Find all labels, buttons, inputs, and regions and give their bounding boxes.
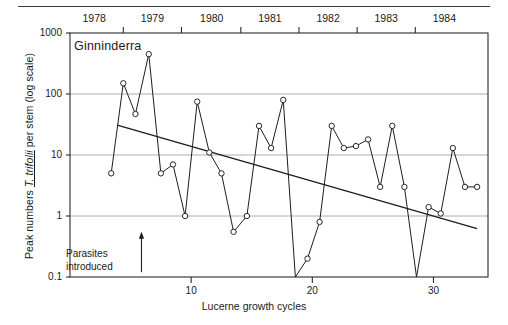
y-tick-label: 100 xyxy=(22,88,62,99)
parasites-arrow xyxy=(139,232,144,272)
top-rule xyxy=(18,6,490,7)
chart-figure: Peak numbers T. trifolii per stem (log s… xyxy=(0,0,508,325)
y-tick-label: 0.1 xyxy=(22,271,62,282)
year-tick-label: 1984 xyxy=(419,12,469,24)
y-axis-label-prefix: Peak numbers xyxy=(23,187,35,259)
year-tick-label: 1980 xyxy=(187,12,237,24)
trend-line xyxy=(117,125,477,229)
x-axis-label: Lucerne growth cycles xyxy=(0,300,508,312)
annotation-line-1: Parasites xyxy=(66,248,113,261)
year-tick-label: 1979 xyxy=(127,12,177,24)
y-axis-label-suffix: per stem (log scale) xyxy=(23,53,35,150)
year-tick-label: 1978 xyxy=(69,12,119,24)
annotation-line-2: introduced xyxy=(66,261,113,274)
gridlines xyxy=(70,94,488,216)
y-tick-label: 1 xyxy=(22,210,62,221)
data-line xyxy=(111,54,477,277)
year-tick-label: 1981 xyxy=(245,12,295,24)
year-tick-label: 1982 xyxy=(303,12,353,24)
x-tick-label: 30 xyxy=(413,285,453,296)
x-tick-label: 20 xyxy=(292,285,332,296)
series-label: Ginninderra xyxy=(74,39,142,53)
year-tick-marks xyxy=(123,27,415,33)
parasites-annotation: Parasites introduced xyxy=(66,248,113,273)
y-tick-marks xyxy=(66,33,70,277)
y-tick-label: 1000 xyxy=(22,27,62,38)
x-tick-marks xyxy=(191,277,433,283)
data-markers xyxy=(108,51,479,261)
y-tick-label: 10 xyxy=(22,149,62,160)
year-tick-label: 1983 xyxy=(361,12,411,24)
x-tick-label: 10 xyxy=(171,285,211,296)
